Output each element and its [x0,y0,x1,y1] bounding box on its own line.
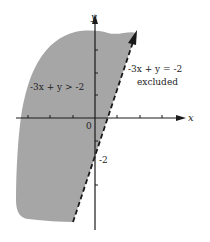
boundary-label: -3x + y = -2 [128,64,182,74]
inequality-graph: y x 0 -2 -3x + y > -2 -3x + y = -2 exclu… [0,0,210,242]
shaded-region [16,31,136,222]
boundary-note: excluded [137,77,178,87]
x-axis-arrow-icon [176,115,186,121]
region-label: -3x + y > -2 [30,82,84,92]
x-axis-label: x [188,112,194,123]
y-axis-label: y [90,11,97,22]
origin-label: 0 [86,121,92,131]
y-intercept-label: -2 [99,155,108,165]
